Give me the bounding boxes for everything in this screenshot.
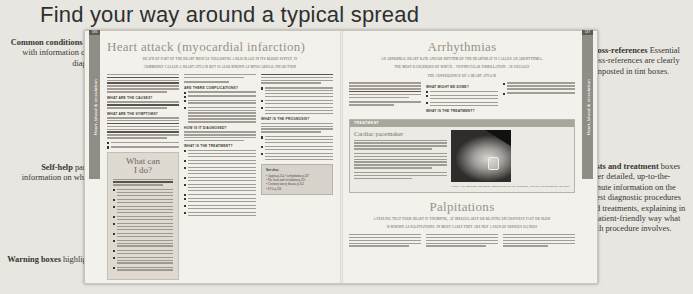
list-item bbox=[184, 160, 256, 164]
folio-left: 186 bbox=[89, 30, 100, 35]
list-item bbox=[503, 92, 575, 94]
page-title: Find your way around a typical spread bbox=[40, 2, 419, 28]
subhead-treatment-right: WHAT IS THE TREATMENT? bbox=[426, 109, 498, 113]
standfirst-arrhythmias-line1: AN ABNORMAL HEART RATE AND/OR RHYTHM OF … bbox=[359, 57, 565, 61]
subhead-complications: ARE THERE COMPLICATIONS? bbox=[184, 86, 256, 90]
list-item bbox=[184, 205, 256, 209]
body-text bbox=[349, 234, 421, 247]
self-help-panel-title-line1: What can bbox=[126, 156, 160, 166]
right-page-column-2: WHAT MIGHT BE DONE? WHAT IS THE TREATMEN… bbox=[426, 82, 498, 115]
subhead-what-might-be-done: WHAT MIGHT BE DONE? bbox=[426, 85, 498, 89]
annotation-tests-treatment-text: boxes offer detailed, up-to-the-minute i… bbox=[588, 162, 685, 233]
tint-box-heading: See also: bbox=[266, 168, 328, 172]
body-text bbox=[354, 153, 447, 169]
standfirst-arrhythmias-line2: THE MOST DANGEROUS OF WHICH – VENTRICULA… bbox=[359, 65, 565, 69]
body-text bbox=[349, 101, 421, 105]
article-title-heart-attack: Heart attack (myocardial infarction) bbox=[107, 39, 333, 55]
list-item bbox=[426, 102, 498, 106]
list-item bbox=[113, 240, 173, 247]
list-item bbox=[113, 233, 173, 237]
right-page: 187 Heart, blood & circulation Arrhythmi… bbox=[341, 31, 597, 283]
list-item bbox=[184, 91, 256, 93]
list-item bbox=[261, 87, 333, 97]
subhead-causes: WHAT ARE THE CAUSES? bbox=[107, 96, 179, 100]
body-text bbox=[184, 81, 256, 83]
right-page-columns-bottom bbox=[349, 234, 575, 250]
book-spread: 186 Heart, blood & circulation Heart att… bbox=[84, 30, 598, 284]
list-item bbox=[184, 150, 256, 157]
annotation-common-conditions-bold: Common conditions bbox=[11, 38, 83, 47]
left-page-column-2: ARE THERE COMPLICATIONS? HOW IS IT DIAGN… bbox=[184, 74, 256, 280]
body-text bbox=[107, 101, 179, 108]
left-page-columns: WHAT ARE THE CAUSES? WHAT ARE THE SYMPTO… bbox=[107, 74, 333, 280]
right-page-bottom-column-1 bbox=[349, 234, 421, 250]
body-text bbox=[113, 179, 173, 186]
right-page-column-3 bbox=[503, 82, 575, 115]
body-text bbox=[349, 82, 421, 98]
annotation-cross-references: Cross-references Essential cross-referen… bbox=[588, 46, 690, 77]
body-text bbox=[184, 131, 256, 141]
list-item bbox=[113, 223, 173, 230]
folio-right: 187 bbox=[582, 30, 593, 35]
list-item bbox=[184, 95, 256, 97]
list-item bbox=[503, 82, 575, 89]
list-item bbox=[113, 250, 173, 254]
treatment-box[interactable]: TREATMENT Cardiac pacemaker Chest X-ray … bbox=[349, 119, 575, 193]
body-text bbox=[261, 74, 333, 84]
list-item bbox=[107, 146, 179, 148]
standfirst-palpitations-line2: IS KNOWN AS PALPITATIONS. IN MOST CASES … bbox=[359, 225, 565, 229]
list-item bbox=[184, 107, 256, 123]
subhead-diagnosis: HOW IS IT DIAGNOSED? bbox=[184, 126, 256, 130]
treatment-box-kicker: TREATMENT bbox=[350, 120, 574, 127]
list-item bbox=[261, 136, 333, 143]
thumb-tab-right: 187 Heart, blood & circulation bbox=[582, 35, 593, 179]
list-item bbox=[184, 100, 256, 104]
list-item bbox=[184, 194, 256, 196]
list-item bbox=[261, 153, 333, 160]
left-page-column-3: WHAT IS THE PROGNOSIS? See also: • Angin… bbox=[261, 74, 333, 280]
thumb-tab-right-label: Heart, blood & circulation bbox=[585, 79, 590, 135]
subhead-symptoms: WHAT ARE THE SYMPTOMS? bbox=[107, 112, 179, 116]
standfirst-heart-attack-line2: COMMONLY CALLED A HEART ATTACK BUT IS AL… bbox=[117, 65, 323, 69]
list-item bbox=[426, 95, 498, 99]
thumb-tab-left: 186 Heart, blood & circulation bbox=[89, 35, 100, 179]
body-text bbox=[261, 123, 333, 133]
cross-reference-tint-box[interactable]: See also: • Angina p.354 • Arrhythmias p… bbox=[261, 164, 333, 195]
annotation-self-help-bold: Self-help bbox=[41, 163, 73, 172]
annotation-tests-treatment-bold: Tests and treatment bbox=[588, 162, 659, 171]
list-item bbox=[261, 146, 333, 150]
right-page-bottom-column-2 bbox=[426, 234, 498, 250]
standfirst-arrhythmias-line3: THE CONSEQUENCE OF A HEART ATTACK bbox=[359, 74, 565, 78]
subhead-treatment: WHAT IS THE TREATMENT? bbox=[184, 144, 256, 148]
list-item bbox=[261, 107, 333, 114]
body-text bbox=[426, 234, 498, 247]
treatment-box-title: Cardiac pacemaker bbox=[354, 130, 447, 137]
list-item bbox=[184, 177, 256, 181]
right-page-bottom-column-3 bbox=[503, 234, 575, 250]
right-page-columns-top: WHAT MIGHT BE DONE? WHAT IS THE TREATMEN… bbox=[349, 82, 575, 115]
left-page-column-1: WHAT ARE THE CAUSES? WHAT ARE THE SYMPTO… bbox=[107, 74, 179, 280]
list-item bbox=[113, 199, 173, 203]
left-page: 186 Heart, blood & circulation Heart att… bbox=[85, 31, 341, 283]
list-item bbox=[113, 267, 173, 271]
treatment-box-body: Cardiac pacemaker Chest X-ray showing a … bbox=[350, 127, 574, 192]
self-help-panel: What can I do? bbox=[107, 152, 179, 280]
list-item bbox=[184, 198, 256, 202]
self-help-panel-title: What can I do? bbox=[113, 157, 173, 176]
right-page-column-1 bbox=[349, 82, 421, 115]
body-text bbox=[503, 234, 575, 247]
body-text bbox=[184, 74, 256, 78]
list-item bbox=[113, 257, 173, 264]
self-help-panel-title-line2: I do? bbox=[134, 165, 152, 175]
body-text bbox=[107, 117, 179, 139]
subhead-prognosis: WHAT IS THE PROGNOSIS? bbox=[261, 117, 333, 121]
thumb-tab-left-label: Heart, blood & circulation bbox=[92, 79, 97, 135]
annotation-tests-treatment: Tests and treatment boxes offer detailed… bbox=[588, 162, 690, 235]
list-item bbox=[184, 167, 256, 174]
list-item bbox=[184, 212, 256, 216]
article-title-arrhythmias: Arrhythmias bbox=[349, 39, 575, 55]
article-title-palpitations: Palpitations bbox=[349, 199, 575, 215]
list-item bbox=[113, 189, 173, 196]
tint-box-row[interactable]: • ECG p.336 bbox=[266, 187, 328, 191]
treatment-box-caption: Chest X-ray showing a pacemaker implante… bbox=[451, 184, 570, 188]
